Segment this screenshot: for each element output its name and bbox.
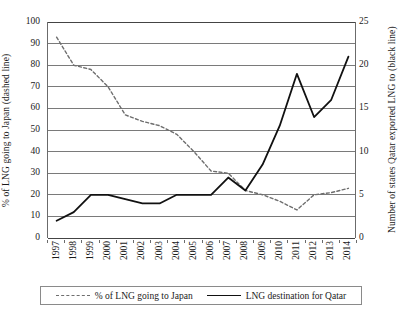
legend-entry: LNG destination for Qatar	[207, 291, 347, 301]
x-axis-tick-label: 1997	[51, 241, 61, 260]
y-axis-left-tick-label: 100	[14, 17, 40, 27]
x-axis-tick-mark	[339, 240, 340, 243]
x-axis-tick-label: 2010	[274, 241, 284, 260]
x-axis-tick-label: 2009	[257, 241, 267, 260]
y-axis-left-tick-label: 20	[14, 190, 40, 200]
x-axis-tick-label: 2002	[136, 241, 146, 260]
y-axis-left-tick-label: 30	[14, 168, 40, 178]
x-axis-tick-mark	[287, 240, 288, 243]
chart-container: % of LNG going to Japan (dashed line) Nu…	[0, 0, 398, 310]
x-axis-tick-label: 1998	[68, 241, 78, 260]
x-axis-tick-mark	[116, 240, 117, 243]
y-axis-right-tick-label: 0	[359, 233, 385, 243]
y-axis-right-tick-label: 20	[359, 60, 385, 70]
x-axis-tick-label: 2000	[102, 241, 112, 260]
y-axis-right-tick-label: 5	[359, 190, 385, 200]
x-axis-tick-label: 2012	[308, 241, 318, 260]
series-line-japan-share	[57, 37, 349, 210]
x-axis-tick-label: 2008	[239, 241, 249, 260]
x-axis-tick-label: 2011	[291, 241, 301, 260]
x-axis-tick-label: 2004	[171, 241, 181, 260]
x-axis-tick-label: 2003	[154, 241, 164, 260]
x-axis-tick-mark	[236, 240, 237, 243]
x-axis-tick-mark	[150, 240, 151, 243]
plot-area	[47, 22, 356, 238]
x-axis-tick-mark	[270, 240, 271, 243]
x-axis-ticks: 1997199819992000200120022003200420052006…	[47, 240, 356, 286]
x-axis-tick-label: 2014	[342, 241, 352, 260]
x-axis-tick-mark	[167, 240, 168, 243]
y-axis-right-title: Number of states Qatar exported LNG to (…	[387, 12, 397, 248]
y-axis-right-ticks: 0510152025	[359, 0, 385, 310]
legend-label: % of LNG going to Japan	[95, 291, 193, 301]
y-axis-left-title: % of LNG going to Japan (dashed line)	[1, 22, 11, 238]
solid-line-icon	[207, 295, 241, 296]
y-axis-right-tick-label: 10	[359, 147, 385, 157]
x-axis-tick-mark	[133, 240, 134, 243]
x-axis-tick-mark	[99, 240, 100, 243]
y-axis-right-tick-label: 25	[359, 17, 385, 27]
y-axis-left-ticks: 0102030405060708090100	[14, 0, 40, 310]
y-axis-left-tick-label: 50	[14, 125, 40, 135]
x-axis-tick-mark	[202, 240, 203, 243]
x-axis-tick-label: 2006	[205, 241, 215, 260]
x-axis-tick-mark	[81, 240, 82, 243]
x-axis-tick-mark	[47, 240, 48, 243]
x-axis-tick-mark	[253, 240, 254, 243]
x-axis-tick-mark	[219, 240, 220, 243]
x-axis-tick-label: 2013	[325, 241, 335, 260]
y-axis-left-tick-label: 70	[14, 82, 40, 92]
y-axis-left-tick-label: 0	[14, 233, 40, 243]
x-axis-tick-mark	[356, 240, 357, 243]
y-axis-left-tick-label: 10	[14, 211, 40, 221]
x-axis-tick-label: 2005	[188, 241, 198, 260]
x-axis-tick-mark	[184, 240, 185, 243]
series-line-qatar-destinations	[57, 57, 349, 221]
x-axis-tick-label: 2001	[119, 241, 129, 260]
x-axis-tick-label: 1999	[85, 241, 95, 260]
chart-legend: % of LNG going to JapanLNG destination f…	[40, 286, 362, 305]
x-axis-tick-mark	[322, 240, 323, 243]
y-axis-left-tick-label: 80	[14, 60, 40, 70]
dashed-line-icon	[56, 295, 90, 296]
legend-label: LNG destination for Qatar	[246, 291, 347, 301]
legend-entry: % of LNG going to Japan	[56, 291, 193, 301]
series-layer	[48, 22, 357, 238]
y-axis-left-tick-label: 60	[14, 103, 40, 113]
x-axis-tick-mark	[305, 240, 306, 243]
x-axis-tick-mark	[64, 240, 65, 243]
y-axis-left-tick-label: 90	[14, 39, 40, 49]
y-axis-left-tick-label: 40	[14, 147, 40, 157]
y-axis-right-tick-label: 15	[359, 103, 385, 113]
x-axis-tick-label: 2007	[222, 241, 232, 260]
